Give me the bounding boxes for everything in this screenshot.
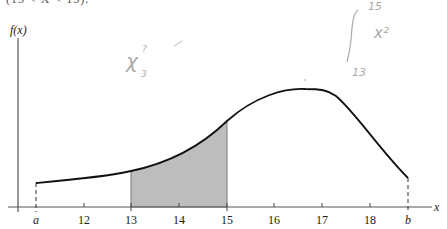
svg-text:χ: χ (125, 49, 139, 73)
tick-label-18: 18 (364, 213, 376, 227)
stray-mark (304, 79, 306, 81)
handwritten-chi-square-note: χ ? 3 (125, 44, 147, 79)
density-chart: a 12 13 14 15 16 17 18 b f(x) x χ ? 3 15… (0, 0, 447, 229)
tick-label-17: 17 (316, 213, 328, 227)
svg-text:?: ? (142, 44, 147, 54)
tick-label-13: 13 (125, 213, 137, 227)
tick-label-16: 16 (268, 213, 280, 227)
tick-label-b: b (405, 213, 411, 227)
y-axis-label: f(x) (10, 23, 27, 37)
svg-text:x²: x² (373, 24, 389, 42)
handwritten-integral-note: 15 x² 13 (347, 0, 389, 79)
tick-label-14: 14 (173, 213, 185, 227)
svg-text:13: 13 (352, 66, 366, 79)
integral-sign-icon (347, 10, 358, 62)
tick-label-a: a (33, 213, 39, 227)
handwritten-stroke (174, 41, 182, 46)
svg-text:15: 15 (368, 0, 382, 13)
tick-label-12: 12 (78, 213, 90, 227)
svg-text:3: 3 (141, 69, 147, 79)
tick-label-15: 15 (221, 213, 233, 227)
x-axis-label: x (433, 200, 440, 214)
